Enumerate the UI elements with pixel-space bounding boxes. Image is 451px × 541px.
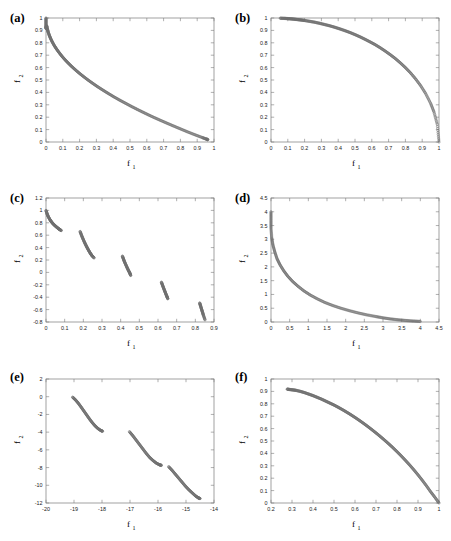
x-tick-label: 0.7 bbox=[173, 325, 181, 331]
x-tick-label: 0.3 bbox=[318, 145, 326, 151]
svg-text:f: f bbox=[127, 158, 130, 168]
svg-text:f: f bbox=[12, 80, 22, 83]
y-tick-label: 1.5 bbox=[260, 278, 268, 284]
svg-text:2: 2 bbox=[18, 75, 24, 78]
svg-text:1: 1 bbox=[358, 525, 361, 531]
panel-f-tag: (f) bbox=[235, 371, 248, 384]
y-tick-label: 0.6 bbox=[260, 65, 268, 71]
y-tick-label: -12 bbox=[35, 500, 43, 506]
svg-text:1: 1 bbox=[133, 525, 136, 531]
y-tick-label: 0.6 bbox=[260, 426, 268, 432]
x-tick-label: 1 bbox=[307, 325, 310, 331]
y-tick-label: 0.2 bbox=[260, 475, 268, 481]
x-tick-label: 0.6 bbox=[154, 325, 162, 331]
y-tick-label: 1 bbox=[40, 207, 43, 213]
y-tick-label: 0.4 bbox=[260, 450, 268, 456]
x-tick-label: 0.5 bbox=[126, 145, 134, 151]
y-tick-label: 0.6 bbox=[35, 65, 43, 71]
y-tick-label: 0.1 bbox=[35, 127, 43, 133]
x-tick-label: -18 bbox=[98, 506, 106, 512]
y-tick-label: 2.5 bbox=[260, 250, 268, 256]
x-tick-label: 2.5 bbox=[361, 325, 369, 331]
x-tick-label: 0.6 bbox=[351, 506, 359, 512]
x-tick-label: 0.2 bbox=[76, 145, 84, 151]
y-tick-label: 0.7 bbox=[260, 52, 268, 58]
y-tick-label: 0 bbox=[265, 319, 268, 325]
panel-a: (a) 00.10.20.30.40.50.60.70.80.9100.10.2… bbox=[0, 2, 226, 180]
y-tick-label: -0.2 bbox=[33, 282, 42, 288]
y-tick-label: 0 bbox=[265, 500, 268, 506]
x-tick-label: 0.2 bbox=[301, 145, 309, 151]
x-axis-title: f1 bbox=[127, 519, 136, 531]
y-tick-label: 0.2 bbox=[260, 114, 268, 120]
y-tick-label: -4 bbox=[38, 429, 43, 435]
x-tick-label: 0.7 bbox=[372, 506, 380, 512]
x-tick-label: 1 bbox=[213, 145, 216, 151]
x-tick-label: 0.8 bbox=[177, 145, 185, 151]
x-tick-label: 0 bbox=[270, 325, 273, 331]
svg-text:f: f bbox=[352, 519, 355, 529]
y-axis-title: f2 bbox=[237, 255, 249, 264]
svg-text:f: f bbox=[352, 158, 355, 168]
panel-d-plot: 00.511.522.533.544.500.511.522.533.544.5… bbox=[225, 182, 451, 360]
y-tick-label: 0.8 bbox=[260, 401, 268, 407]
y-tick-label: 0.1 bbox=[260, 127, 268, 133]
x-tick-label: -14 bbox=[210, 506, 218, 512]
y-tick-label: -0.6 bbox=[33, 307, 42, 313]
x-tick-label: 0.5 bbox=[136, 325, 144, 331]
data-points bbox=[45, 209, 206, 321]
y-tick-label: 0.1 bbox=[260, 488, 268, 494]
x-tick-label: 0.8 bbox=[192, 325, 200, 331]
x-tick-label: 0 bbox=[45, 325, 48, 331]
y-tick-label: 0.6 bbox=[35, 232, 43, 238]
y-tick-label: 0.4 bbox=[35, 89, 43, 95]
svg-text:1: 1 bbox=[358, 344, 361, 350]
y-tick-label: 0.5 bbox=[260, 305, 268, 311]
y-tick-label: 0.7 bbox=[35, 52, 43, 58]
x-tick-label: 0.8 bbox=[402, 145, 410, 151]
panel-d-tag: (d) bbox=[235, 192, 250, 205]
y-tick-label: 1 bbox=[265, 15, 268, 21]
x-tick-label: 1 bbox=[438, 145, 441, 151]
x-tick-label: 0.9 bbox=[210, 325, 218, 331]
x-tick-label: 0.4 bbox=[117, 325, 125, 331]
svg-text:2: 2 bbox=[18, 255, 24, 258]
six-panel-pareto-figure: (a) 00.10.20.30.40.50.60.70.80.9100.10.2… bbox=[0, 0, 451, 541]
y-tick-label: 1.2 bbox=[35, 195, 43, 201]
x-tick-label: 2 bbox=[344, 325, 347, 331]
x-tick-label: 1.5 bbox=[323, 325, 331, 331]
y-tick-label: -6 bbox=[38, 447, 43, 453]
svg-text:f: f bbox=[12, 441, 22, 444]
y-tick-label: 0.4 bbox=[260, 89, 268, 95]
y-tick-label: 0.3 bbox=[260, 102, 268, 108]
panel-b: (b) 00.10.20.30.40.50.60.70.80.9100.10.2… bbox=[225, 2, 451, 180]
x-tick-label: 3 bbox=[382, 325, 385, 331]
x-tick-label: 0.1 bbox=[61, 325, 69, 331]
x-axis-title: f1 bbox=[352, 158, 361, 170]
panel-d: (d) 00.511.522.533.544.500.511.522.533.5… bbox=[225, 182, 451, 360]
panel-b-plot: 00.10.20.30.40.50.60.70.80.9100.10.20.30… bbox=[225, 2, 451, 180]
svg-text:f: f bbox=[237, 80, 247, 83]
x-tick-label: -16 bbox=[154, 506, 162, 512]
x-tick-label: 1 bbox=[438, 506, 441, 512]
y-tick-label: 0.2 bbox=[35, 114, 43, 120]
svg-text:2: 2 bbox=[243, 75, 249, 78]
svg-text:2: 2 bbox=[243, 436, 249, 439]
x-tick-label: 0.3 bbox=[288, 506, 296, 512]
panel-f-plot: 0.20.30.40.50.60.70.80.9100.10.20.30.40.… bbox=[225, 363, 451, 541]
panel-e-tag: (e) bbox=[10, 371, 24, 384]
y-tick-label: 0.9 bbox=[260, 388, 268, 394]
y-tick-label: 0.3 bbox=[35, 102, 43, 108]
svg-text:f: f bbox=[352, 338, 355, 348]
data-points bbox=[270, 211, 422, 323]
svg-text:1: 1 bbox=[358, 164, 361, 170]
x-tick-label: 0.9 bbox=[193, 145, 201, 151]
panel-c-tag: (c) bbox=[10, 192, 24, 205]
x-tick-label: 0.5 bbox=[330, 506, 338, 512]
y-tick-label: 0.9 bbox=[35, 27, 43, 33]
svg-text:2: 2 bbox=[243, 255, 249, 258]
x-axis-title: f1 bbox=[352, 338, 361, 350]
x-tick-label: 0.2 bbox=[80, 325, 88, 331]
y-tick-label: -10 bbox=[35, 482, 43, 488]
x-tick-label: 0 bbox=[270, 145, 273, 151]
